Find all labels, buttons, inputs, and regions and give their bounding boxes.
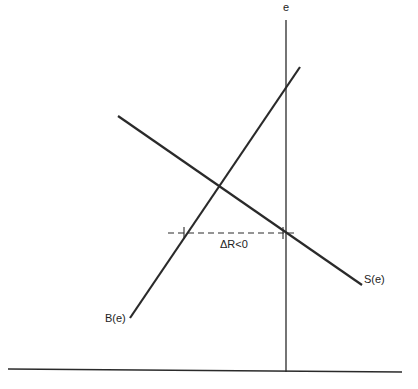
- s-curve: [118, 116, 362, 285]
- diagram-svg: [0, 0, 418, 389]
- vertical-axis-label: e: [283, 2, 289, 13]
- deficit-annotation: ΔR<0: [220, 239, 248, 250]
- horizontal-axis: [8, 369, 402, 372]
- b-curve-label: B(e): [105, 313, 126, 324]
- b-curve: [130, 67, 300, 318]
- diagram-canvas: e B(e) S(e) ΔR<0: [0, 0, 418, 389]
- s-curve-label: S(e): [364, 274, 385, 285]
